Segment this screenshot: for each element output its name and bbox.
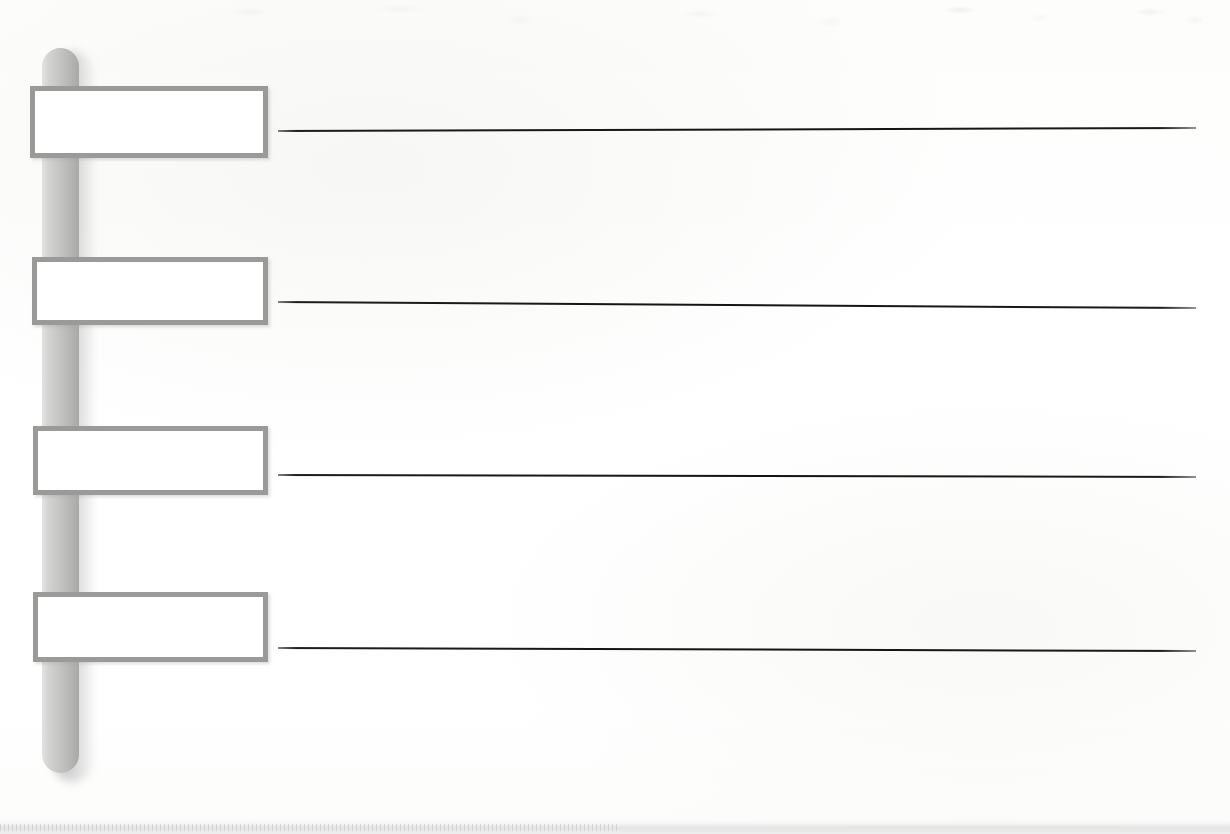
label-box-2[interactable]: [32, 257, 268, 325]
label-box-3[interactable]: [33, 426, 268, 495]
top-bleedthrough-artifact: [0, 0, 1230, 34]
writing-rule-line: [278, 127, 1196, 132]
label-box-4[interactable]: [33, 592, 268, 662]
label-box-1[interactable]: [30, 86, 268, 158]
writing-rule-line: [278, 301, 1196, 309]
worksheet-page: [0, 0, 1230, 834]
bottom-scan-edge-artifact: [0, 820, 1230, 834]
writing-rule-line: [278, 474, 1196, 478]
writing-rule-line: [278, 647, 1196, 652]
